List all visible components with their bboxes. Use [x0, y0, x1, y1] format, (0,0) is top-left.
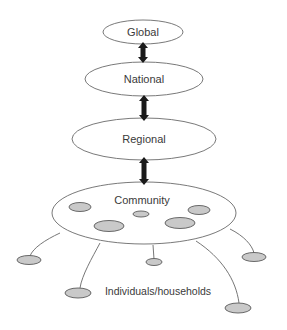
double-arrow-icon: [139, 157, 149, 185]
individual-node: [242, 253, 266, 262]
link-right: [230, 229, 254, 253]
level-label-regional: Regional: [122, 133, 165, 145]
link-center: [153, 245, 154, 259]
individuals-label: Individuals/households: [105, 285, 211, 297]
level-regional: Regional: [72, 118, 216, 160]
level-community: Community: [52, 182, 236, 244]
level-national: National: [85, 62, 203, 96]
individual-node: [65, 288, 91, 298]
hierarchy-diagram: Global National Regional Community Indiv…: [0, 0, 287, 330]
community-member: [165, 218, 195, 229]
level-label-global: Global: [127, 26, 159, 38]
level-global: Global: [103, 20, 183, 44]
community-member: [188, 206, 210, 215]
community-member: [69, 203, 91, 212]
level-label-national: National: [124, 73, 164, 85]
double-arrow-icon: [138, 42, 148, 63]
link-left: [30, 233, 60, 256]
double-arrow-icon: [139, 95, 149, 121]
individual-node: [225, 303, 251, 313]
community-member: [94, 221, 124, 232]
individual-node: [17, 256, 41, 265]
individuals: [17, 253, 266, 314]
level-label-community: Community: [114, 194, 170, 206]
individual-node: [146, 259, 162, 266]
link-lower-left: [80, 243, 100, 288]
community-member: [133, 211, 149, 217]
